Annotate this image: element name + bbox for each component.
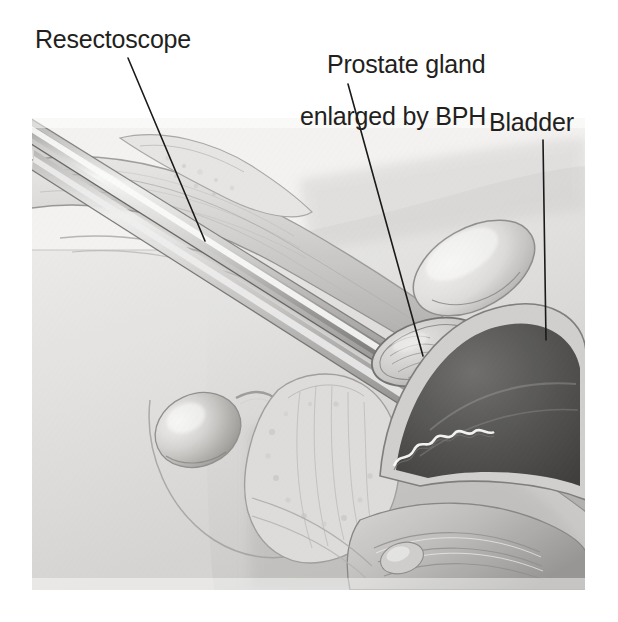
- illustration-canvas: Resectoscope Prostate gland enlarged by …: [0, 0, 618, 622]
- label-resectoscope: Resectoscope: [35, 27, 191, 52]
- label-prostate-line1: Prostate gland: [327, 50, 485, 78]
- label-bladder: Bladder: [489, 110, 574, 135]
- label-prostate-gland: Prostate gland enlarged by BPH: [300, 27, 486, 179]
- label-prostate-line2: enlarged by BPH: [300, 104, 486, 129]
- figure-body: [28, 118, 586, 590]
- paper-grain: [32, 118, 585, 590]
